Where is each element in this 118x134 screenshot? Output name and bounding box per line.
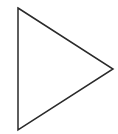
diagram-canvas [0, 0, 118, 134]
triangle-shape [18, 8, 113, 130]
